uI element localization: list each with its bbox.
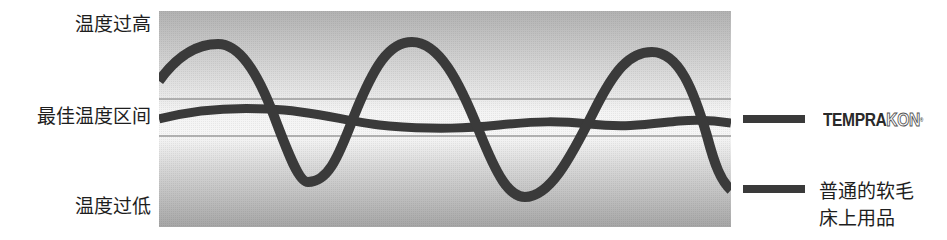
temperature-chart xyxy=(159,11,731,227)
legend-label-line1: 普通的软毛 xyxy=(819,178,914,205)
legend-swatch-regular-bedding xyxy=(743,185,805,193)
label-too-hot: 温度过高 xyxy=(75,13,151,35)
temprakon-logo: TEMPRAKON® xyxy=(823,110,923,130)
legend-item-regular-bedding: 普通的软毛 床上用品 xyxy=(743,178,914,232)
brand-solid-text: TEMPRA xyxy=(823,109,886,130)
legend-label-line2: 床上用品 xyxy=(819,205,914,232)
label-too-cold: 温度过低 xyxy=(75,195,151,217)
temperature-chart-panel xyxy=(159,11,731,227)
brand-outline-text: KON xyxy=(886,109,919,130)
trademark-symbol: ® xyxy=(920,117,923,123)
halftone-texture xyxy=(159,11,731,227)
label-optimal-range: 最佳温度区间 xyxy=(37,105,151,127)
legend-swatch-temprakon xyxy=(743,115,805,123)
legend-label-regular-bedding: 普通的软毛 床上用品 xyxy=(819,178,914,232)
legend-item-temprakon: TEMPRAKON® xyxy=(743,110,945,130)
